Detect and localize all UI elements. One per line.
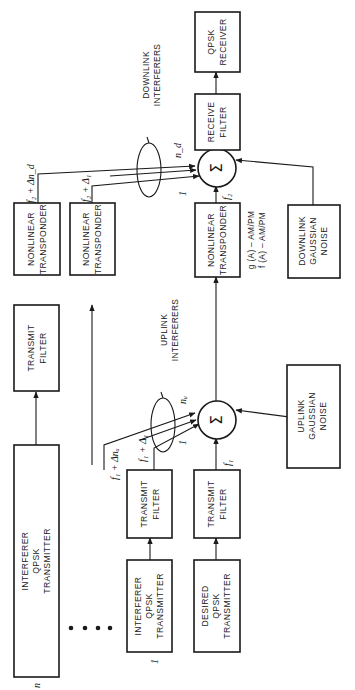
label-one-uplink: 1	[177, 440, 188, 445]
svg-text:RECEIVER: RECEIVER	[218, 18, 228, 65]
nonlinear-transponder-1-block: NONLINEAR TRANSPONDER	[70, 203, 115, 275]
nonlinear-transponder-desired-block: NONLINEAR TRANSPONDER	[195, 203, 240, 277]
uplink-sigma-symbol: Σ	[208, 415, 226, 424]
transmit-filter-desired-block: TRANSMIT FILTER	[194, 470, 240, 538]
svg-text:TRANSPONDER: TRANSPONDER	[218, 205, 228, 275]
svg-text:TRANSMIT: TRANSMIT	[206, 480, 216, 527]
label-f2: f₂	[221, 193, 232, 200]
svg-text:UPLINK: UPLINK	[296, 399, 306, 432]
uplink-interferers-label: UPLINK INTERFERERS	[159, 299, 180, 362]
uplink-gaussian-noise-block: UPLINK GAUSSIAN NOISE	[287, 365, 340, 468]
svg-text:INTERFERER: INTERFERER	[133, 577, 143, 636]
interferer-1-transmitter-block: INTERFERER QPSK TRANSMITTER	[127, 560, 172, 652]
svg-text:FILTER: FILTER	[218, 488, 228, 519]
svg-text:QPSK: QPSK	[31, 548, 41, 573]
label-f1-delta-1: f₁ + Δ₁	[137, 435, 148, 462]
svg-text:NOISE: NOISE	[319, 227, 329, 256]
label-f1: f₁	[222, 460, 233, 466]
downlink-interferers-label: DOWNLINK INTERFERERS	[141, 44, 162, 107]
svg-text:UPLINK: UPLINK	[159, 314, 169, 346]
svg-text:FILTER: FILTER	[38, 332, 48, 363]
svg-text:INTERFERERS: INTERFERERS	[152, 44, 162, 107]
svg-text:FILTER: FILTER	[151, 488, 161, 519]
label-f2-delta-1: f₂ + Δ₁	[80, 175, 91, 202]
label-one-downlink: 1	[177, 191, 188, 196]
nonlinear-transponder-n-block: NONLINEAR TRANSPONDER	[14, 203, 60, 275]
svg-text:NONLINEAR: NONLINEAR	[81, 212, 91, 266]
svg-text:INTERFERERS: INTERFERERS	[170, 299, 180, 362]
svg-text:QPSK: QPSK	[211, 593, 221, 618]
uplink-interferers-group	[151, 398, 175, 452]
downlink-summer: Σ	[198, 149, 236, 187]
interferer-1-index: 1	[149, 659, 160, 664]
satellite-link-block-diagram: Σ Σ INTERFERER QPSK TRANSMITTER n TRANSM…	[0, 0, 355, 690]
svg-text:DOWNLINK: DOWNLINK	[141, 51, 151, 99]
svg-text:QPSK: QPSK	[144, 593, 154, 618]
svg-text:TRANSMITTER: TRANSMITTER	[155, 573, 165, 639]
nonlinearity-note: g (A) – AM/PM f (A) – AM/PM	[246, 211, 267, 269]
more-interferers-ellipsis	[69, 626, 113, 631]
downlink-sigma-symbol: Σ	[208, 163, 226, 172]
svg-text:RECEIVE: RECEIVE	[206, 102, 216, 143]
svg-text:GAUSSIAN: GAUSSIAN	[308, 217, 318, 265]
svg-text:TRANSPONDER: TRANSPONDER	[93, 204, 103, 274]
svg-text:g (A) – AM/PM: g (A) – AM/PM	[246, 211, 256, 269]
svg-text:TRANSMIT: TRANSMIT	[139, 480, 149, 527]
svg-text:NONLINEAR: NONLINEAR	[206, 213, 216, 267]
qpsk-receiver-block: QPSK RECEIVER	[195, 12, 240, 72]
receive-filter-block: RECEIVE FILTER	[195, 94, 240, 150]
svg-text:DESIRED: DESIRED	[200, 585, 210, 626]
downlink-gaussian-noise-block: DOWNLINK GAUSSIAN NOISE	[288, 205, 340, 278]
svg-text:QPSK: QPSK	[206, 29, 216, 54]
label-f1-delta-nu: f₁ + Δnᵤ	[109, 448, 120, 480]
svg-text:TRANSMIT: TRANSMIT	[26, 324, 36, 371]
svg-text:GAUSSIAN: GAUSSIAN	[307, 392, 317, 440]
downlink-interferers-group	[137, 143, 161, 197]
desired-transmitter-block: DESIRED QPSK TRANSMITTER	[194, 560, 240, 652]
svg-text:DOWNLINK: DOWNLINK	[297, 216, 307, 266]
interferer-n-transmitter-block: INTERFERER QPSK TRANSMITTER	[14, 445, 59, 677]
label-nu: nᵤ	[177, 396, 188, 404]
uplink-summer: Σ	[198, 401, 236, 439]
label-nd: n_d	[172, 142, 183, 158]
svg-text:TRANSMITTER: TRANSMITTER	[42, 528, 52, 594]
svg-text:INTERFERER: INTERFERER	[20, 532, 30, 591]
svg-text:TRANSMITTER: TRANSMITTER	[222, 573, 232, 639]
svg-text:TRANSPONDER: TRANSPONDER	[38, 204, 48, 274]
label-f2-delta-nd: f₂ + Δn_d	[25, 163, 36, 203]
svg-text:NOISE: NOISE	[318, 402, 328, 431]
transmit-filter-n-block: TRANSMIT FILTER	[14, 305, 59, 391]
svg-text:NONLINEAR: NONLINEAR	[26, 212, 36, 266]
svg-text:FILTER: FILTER	[218, 106, 228, 137]
interferer-n-index: n	[31, 683, 42, 688]
transmit-filter-1-block: TRANSMIT FILTER	[127, 470, 172, 538]
svg-text:f (A) – AM/PM: f (A) – AM/PM	[257, 212, 267, 268]
